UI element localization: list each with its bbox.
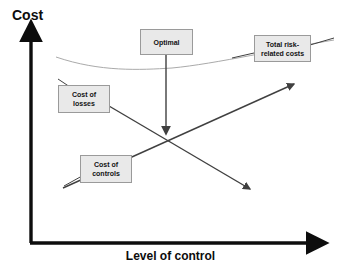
- y-axis-label: Cost: [12, 7, 43, 23]
- callout-optimal: Optimal: [140, 29, 193, 55]
- callout-cost-of-controls: Cost of controls: [80, 155, 132, 183]
- callout-total-risk-related-costs: Total risk-related costs: [254, 35, 311, 62]
- diagram-canvas: Cost Level of control Optimal Total risk…: [0, 0, 341, 276]
- x-axis-label: Level of control: [0, 249, 341, 263]
- callout-cost-of-losses: Cost of losses: [58, 85, 110, 113]
- total-risk-leader-right: [310, 38, 334, 45]
